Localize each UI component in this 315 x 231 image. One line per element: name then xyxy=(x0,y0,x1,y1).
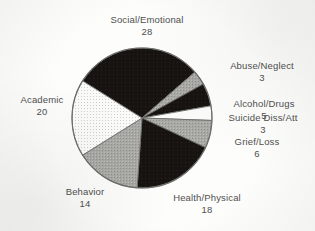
label-health-physical-name: Health/Physical xyxy=(152,192,262,204)
label-health-physical-value: 18 xyxy=(152,204,262,216)
label-behavior-name: Behavior xyxy=(40,186,130,198)
label-suicide-diss-att: Suicide Diss/Att 3 xyxy=(213,112,313,135)
label-abuse-neglect-value: 3 xyxy=(212,72,312,84)
label-social-emotional-value: 28 xyxy=(88,26,206,38)
label-abuse-neglect-name: Abuse/Neglect xyxy=(212,60,312,72)
label-social-emotional-name: Social/Emotional xyxy=(88,14,206,26)
label-abuse-neglect: Abuse/Neglect 3 xyxy=(212,60,312,83)
label-grief-loss: Grief/Loss 6 xyxy=(211,136,303,159)
pie-slices xyxy=(72,48,212,188)
label-suicide-diss-att-value: 3 xyxy=(213,124,313,136)
label-academic-value: 20 xyxy=(2,106,82,118)
label-health-physical: Health/Physical 18 xyxy=(152,192,262,215)
label-academic-name: Academic xyxy=(2,94,82,106)
label-grief-loss-value: 6 xyxy=(211,148,303,160)
label-suicide-diss-att-name: Suicide Diss/Att xyxy=(213,112,313,124)
label-behavior-value: 14 xyxy=(40,198,130,210)
label-alcohol-drugs-name: Alcohol/Drugs xyxy=(216,98,312,110)
label-behavior: Behavior 14 xyxy=(40,186,130,209)
label-social-emotional: Social/Emotional 28 xyxy=(88,14,206,37)
label-academic: Academic 20 xyxy=(2,94,82,117)
label-grief-loss-name: Grief/Loss xyxy=(211,136,303,148)
pie-chart: Social/Emotional 28 Abuse/Neglect 3 Alco… xyxy=(0,0,315,231)
